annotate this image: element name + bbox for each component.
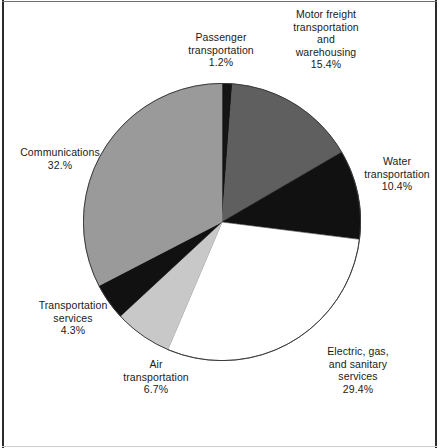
- pie-label-transportation-services: Transportation services 4.3%: [18, 299, 128, 337]
- pie-label-air-transportation: Air transportation 6.7%: [104, 358, 208, 396]
- pie-label-electric-gas-and-sanitary-services: Electric, gas, and sanitary services 29.…: [306, 345, 410, 395]
- page-frame-top-rule: [2, 1, 437, 2]
- pie-label-water-transportation: Water transportation 10.4%: [352, 155, 442, 193]
- page-frame-bottom-rule: [2, 446, 437, 447]
- page-frame-right-rule: [435, 0, 437, 448]
- chart-page: Motor freight transportation and warehou…: [0, 0, 443, 448]
- pie-label-passenger-transportation: Passenger transportation 1.2%: [166, 31, 276, 69]
- pie-label-communications: Communications 32.%: [2, 146, 118, 171]
- page-frame-left-rule: [2, 0, 4, 448]
- pie-label-motor-freight-transportation-and-warehousing: Motor freight transportation and warehou…: [270, 8, 382, 71]
